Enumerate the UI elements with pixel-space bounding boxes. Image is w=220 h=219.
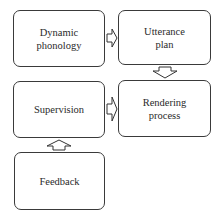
- node-feedback: Feedback: [14, 152, 105, 210]
- arrow-right-icon: [106, 27, 118, 49]
- node-label: Feedback: [39, 175, 79, 188]
- node-dynamic-phonology: Dynamic phonology: [13, 10, 105, 67]
- node-utterance-plan: Utterance plan: [118, 10, 211, 65]
- node-label: Dynamic phonology: [37, 26, 82, 52]
- node-rendering-process: Rendering process: [118, 80, 211, 137]
- node-label: Supervision: [34, 103, 84, 116]
- arrow-right-icon: [106, 95, 118, 123]
- arrow-up-icon: [46, 139, 72, 151]
- node-supervision: Supervision: [13, 81, 105, 138]
- node-label: Utterance plan: [144, 25, 185, 51]
- arrow-down-icon: [152, 66, 178, 79]
- node-label: Rendering process: [143, 96, 187, 122]
